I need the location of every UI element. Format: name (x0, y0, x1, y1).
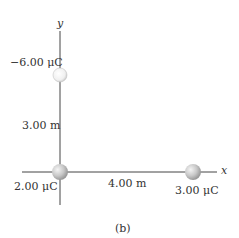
distance-vertical-label: 3.00 m (22, 119, 60, 132)
charge-top-label: −6.00 μC (10, 56, 63, 69)
y-axis-label: y (57, 17, 63, 30)
charge-origin-label: 2.00 μC (14, 180, 58, 193)
charge-right (185, 164, 201, 180)
charge-top (53, 68, 67, 82)
x-axis-label: x (221, 164, 227, 177)
figure-caption: (b) (115, 222, 131, 235)
charge-right-label: 3.00 μC (175, 184, 219, 197)
charge-origin (52, 164, 68, 180)
distance-horizontal-label: 4.00 m (108, 177, 146, 190)
